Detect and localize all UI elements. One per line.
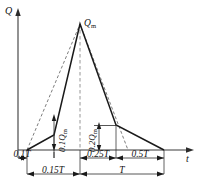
hydrograph-figure: Q t <box>0 0 201 195</box>
y-axis-arrow-icon <box>15 8 20 16</box>
svg-text:0.1Qm: 0.1Qm <box>57 128 68 152</box>
dimension-label-recession: 0.5T <box>131 149 149 159</box>
hydrograph-svg: Q t <box>0 0 201 195</box>
dimension-label-base-time: T <box>119 165 125 175</box>
rising-limb-ordinate-arrow <box>52 114 56 151</box>
peak-label: Qm <box>84 18 97 29</box>
dimension-label-lag-initial: 0.1T <box>13 149 31 159</box>
rising-ordinate-sub: m <box>61 128 68 134</box>
y-axis-label: Q <box>5 5 13 16</box>
axes-group <box>15 8 194 153</box>
dimension-label-time-to-peak: 0.15T <box>42 165 65 175</box>
falling-limb-ordinate-arrow <box>94 122 116 152</box>
rising-ordinate-value: 0.1 <box>57 141 67 152</box>
x-axis-arrow-icon <box>186 147 194 152</box>
dimension-label-peak-to-inflection: 0.25T <box>87 149 110 159</box>
falling-ordinate-sub: m <box>91 128 98 134</box>
x-axis-label: t <box>186 153 189 164</box>
dashed-comparison-curve <box>27 24 128 150</box>
svg-text:Qm: Qm <box>84 18 97 29</box>
rising-limb-ordinate-label: 0.1Qm <box>57 128 68 152</box>
peak-label-sub: m <box>91 22 97 29</box>
